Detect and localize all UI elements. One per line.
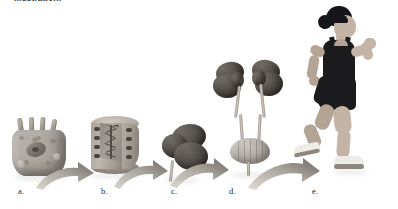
arrow-cell-to-tissue xyxy=(34,162,96,192)
runner-front-calf xyxy=(336,130,351,159)
arrow-system-to-organism xyxy=(246,158,322,192)
panel-label-d: d. xyxy=(229,186,236,196)
runner-chest-skin xyxy=(334,39,348,46)
arrow-tissue-to-kidney xyxy=(112,160,170,190)
figure-caption-top: Illustration. xyxy=(14,0,61,3)
tissue-cut-notch xyxy=(100,122,122,162)
runner-fringe xyxy=(332,14,348,23)
figure-canvas: Illustration. xyxy=(0,0,398,209)
runner-front-fist xyxy=(364,38,376,49)
left-kidney-hilum xyxy=(230,72,244,88)
panel-label-e: e. xyxy=(312,186,318,196)
panel-label-b: b. xyxy=(101,186,108,196)
cell-nucleolus xyxy=(32,147,39,152)
runner-organism-illustration xyxy=(282,6,392,182)
panel-label-a: a. xyxy=(18,186,24,196)
right-ureter-lower xyxy=(257,114,261,142)
panel-label-c: c. xyxy=(171,186,177,196)
